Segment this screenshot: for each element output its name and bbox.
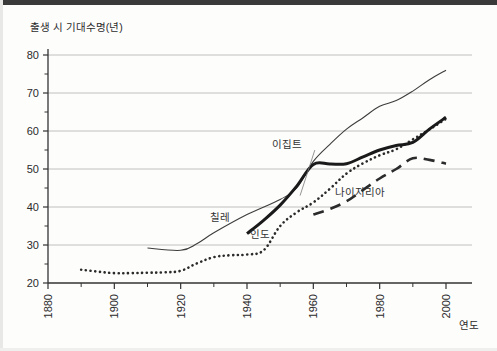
left-edge-shadow xyxy=(0,0,3,351)
y-tick-label: 80 xyxy=(27,49,39,61)
series-label-인도: 인도 xyxy=(250,228,270,240)
gridlines xyxy=(48,55,472,245)
life-expectancy-line-chart: 2030405060708018801900192019401960198020… xyxy=(0,0,497,351)
axes xyxy=(48,49,472,283)
data-series xyxy=(81,70,446,273)
x-tick-label: 1960 xyxy=(307,294,319,318)
x-axis-title: 연도 xyxy=(459,319,479,331)
series-annotations: 칠레인도이집트나이지리아 xyxy=(210,138,384,240)
series-label-나이지리아: 나이지리아 xyxy=(335,186,385,198)
x-tick-label: 1880 xyxy=(42,294,54,318)
figure-canvas: 2030405060708018801900192019401960198020… xyxy=(0,0,497,351)
y-tick-label: 70 xyxy=(27,87,39,99)
series-label-칠레: 칠레 xyxy=(210,211,230,223)
y-axis-title: 출생 시 기대수명(년) xyxy=(30,21,123,33)
series-line xyxy=(81,119,446,273)
y-tick-label: 50 xyxy=(27,163,39,175)
series-label-이집트: 이집트 xyxy=(272,138,302,150)
x-tick-label: 1980 xyxy=(374,294,386,318)
axis-ticks xyxy=(43,55,446,289)
series-line xyxy=(148,70,447,250)
y-tick-label: 60 xyxy=(27,125,39,137)
top-edge-band xyxy=(0,0,497,5)
x-tick-label: 1920 xyxy=(175,294,187,318)
annotation-leader-line xyxy=(300,150,315,196)
y-tick-label: 30 xyxy=(27,239,39,251)
axis-tick-labels: 2030405060708018801900192019401960198020… xyxy=(27,49,452,318)
y-tick-label: 40 xyxy=(27,201,39,213)
x-tick-label: 1940 xyxy=(241,294,253,318)
series-line xyxy=(247,117,446,233)
x-tick-label: 1900 xyxy=(108,294,120,318)
y-tick-label: 20 xyxy=(27,277,39,289)
x-tick-label: 2000 xyxy=(440,294,452,318)
